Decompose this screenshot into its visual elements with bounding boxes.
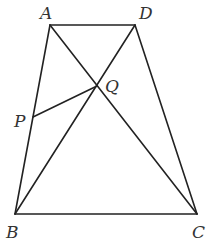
labels: A D B C P Q [5, 3, 205, 242]
segment-DC [135, 25, 197, 214]
label-B: B [5, 222, 19, 242]
label-P: P [13, 111, 26, 131]
segment-PQ [33, 86, 97, 117]
segment-AC [50, 25, 197, 214]
geometry-figure: A D B C P Q [0, 0, 211, 244]
label-A: A [38, 3, 52, 23]
label-D: D [138, 3, 153, 23]
segments [15, 25, 197, 214]
label-C: C [192, 222, 205, 242]
label-Q: Q [105, 76, 119, 96]
